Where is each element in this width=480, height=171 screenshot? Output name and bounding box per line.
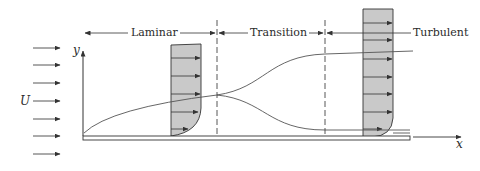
laminar-velocity-profile (171, 44, 201, 136)
flat-plate (83, 136, 410, 140)
boundary-layer-diagram (0, 0, 480, 171)
freestream-velocity-label: U (20, 95, 30, 107)
turbulent-velocity-profile (363, 9, 393, 137)
x-axis-label: x (456, 138, 463, 150)
freestream-arrows (33, 48, 60, 154)
region-label-turbulent: Turbulent (411, 27, 470, 38)
region-label-laminar: Laminar (129, 27, 180, 38)
region-label-transition: Transition (248, 27, 309, 38)
y-axis-label: y (73, 44, 80, 56)
